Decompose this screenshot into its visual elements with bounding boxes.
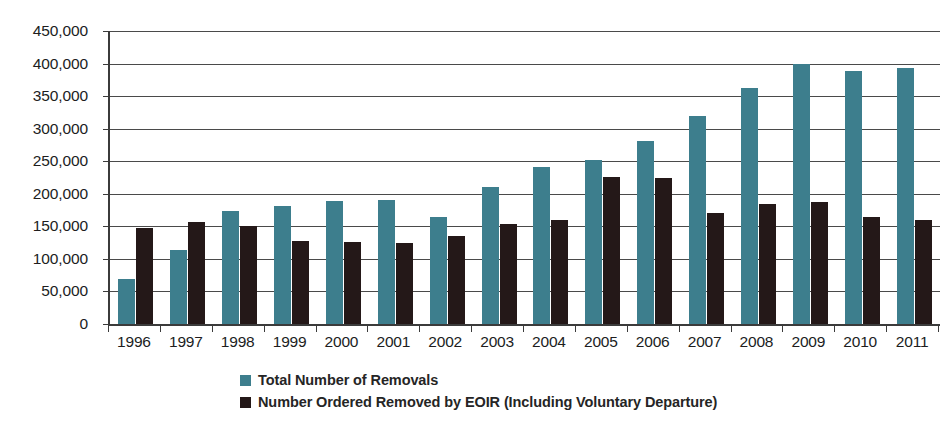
bar-2002-series-1 (430, 217, 447, 324)
y-tick-mark (103, 161, 110, 162)
x-tick-label: 2006 (627, 333, 679, 351)
bar-2009-series-2 (811, 202, 828, 324)
x-tick-mark (108, 324, 109, 332)
y-axis-tick-labels: 050,000100,000150,000200,000250,000300,0… (0, 0, 96, 360)
bar-group-2010 (836, 31, 888, 324)
bar-2007-series-1 (689, 116, 706, 324)
bar-2009-series-1 (793, 64, 810, 324)
y-tick-label: 300,000 (33, 120, 88, 138)
x-tick-label: 2011 (886, 333, 938, 351)
x-tick-label: 1998 (212, 333, 264, 351)
bar-group-2000 (318, 31, 370, 324)
legend-label-eoir-ordered-removed: Number Ordered Removed by EOIR (Includin… (258, 394, 717, 410)
bar-group-1998 (214, 31, 266, 324)
bar-2011-series-1 (897, 68, 914, 324)
y-tick-mark (103, 96, 110, 97)
x-tick-label: 2009 (782, 333, 834, 351)
y-tick-label: 100,000 (33, 250, 88, 268)
bar-1998-series-1 (222, 211, 239, 324)
x-tick-label: 2007 (679, 333, 731, 351)
bar-chart-figure: 050,000100,000150,000200,000250,000300,0… (0, 0, 948, 431)
x-tick-label: 2000 (316, 333, 368, 351)
bar-group-2006 (629, 31, 681, 324)
bar-group-2005 (577, 31, 629, 324)
x-tick-label: 2004 (523, 333, 575, 351)
x-tick-mark (212, 324, 213, 332)
x-tick-mark (731, 324, 732, 332)
bar-2004-series-1 (533, 167, 550, 324)
bar-1998-series-2 (240, 226, 257, 324)
bar-2006-series-1 (637, 141, 654, 324)
y-tick-mark (103, 226, 110, 227)
y-tick-label: 0 (79, 315, 88, 333)
bar-group-2003 (473, 31, 525, 324)
x-tick-mark (938, 324, 939, 332)
bar-2005-series-1 (585, 160, 602, 324)
bar-group-2007 (681, 31, 733, 324)
x-tick-mark (367, 324, 368, 332)
y-tick-mark (103, 31, 110, 32)
bar-2000-series-1 (326, 201, 343, 324)
y-tick-label: 450,000 (33, 22, 88, 40)
bars-layer (110, 31, 940, 324)
bar-group-1999 (266, 31, 318, 324)
y-tick-label: 350,000 (33, 87, 88, 105)
bar-1996-series-1 (118, 279, 135, 324)
bar-2008-series-1 (741, 88, 758, 324)
y-tick-label: 50,000 (41, 282, 88, 300)
legend-label-total-removals: Total Number of Removals (258, 372, 438, 388)
x-axis-tick-labels: 1996199719981999200020012002200320042005… (108, 333, 938, 351)
bar-2000-series-2 (344, 242, 361, 324)
legend-swatch-icon-total-removals (240, 375, 251, 386)
bar-1997-series-2 (188, 222, 205, 324)
bar-2008-series-2 (759, 204, 776, 324)
bar-2003-series-1 (482, 187, 499, 324)
bar-2010-series-2 (863, 217, 880, 324)
y-tick-mark (103, 291, 110, 292)
x-tick-label: 2008 (731, 333, 783, 351)
bar-group-2009 (784, 31, 836, 324)
bar-2002-series-2 (448, 236, 465, 324)
legend-item-total-removals: Total Number of Removals (0, 372, 948, 388)
y-tick-mark (103, 194, 110, 195)
x-tick-mark (627, 324, 628, 332)
bar-2007-series-2 (707, 213, 724, 324)
x-tick-label: 2001 (367, 333, 419, 351)
bar-2001-series-2 (396, 243, 413, 324)
bar-group-2002 (421, 31, 473, 324)
x-tick-mark (523, 324, 524, 332)
chart-legend: Total Number of Removals Number Ordered … (0, 372, 948, 416)
x-tick-label: 2002 (419, 333, 471, 351)
y-tick-label: 150,000 (33, 217, 88, 235)
bar-1997-series-1 (170, 250, 187, 324)
y-tick-mark (103, 64, 110, 65)
x-tick-label: 2005 (575, 333, 627, 351)
y-tick-mark (103, 259, 110, 260)
x-tick-mark (834, 324, 835, 332)
legend-item-eoir-ordered-removed: Number Ordered Removed by EOIR (Includin… (0, 394, 948, 410)
x-tick-mark (575, 324, 576, 332)
bar-1999-series-1 (274, 206, 291, 325)
x-tick-mark (264, 324, 265, 332)
bar-group-2004 (525, 31, 577, 324)
x-tick-mark (471, 324, 472, 332)
bar-group-1996 (110, 31, 162, 324)
x-tick-mark (160, 324, 161, 332)
bar-group-2011 (888, 31, 940, 324)
bar-group-2008 (733, 31, 785, 324)
y-tick-label: 250,000 (33, 152, 88, 170)
bar-2005-series-2 (603, 177, 620, 324)
x-tick-mark (419, 324, 420, 332)
bar-group-2001 (369, 31, 421, 324)
bar-2004-series-2 (551, 220, 568, 324)
x-tick-label: 1996 (108, 333, 160, 351)
x-tick-mark (886, 324, 887, 332)
bar-2003-series-2 (500, 224, 517, 324)
plot-wrapper: 050,000100,000150,000200,000250,000300,0… (0, 0, 948, 360)
bar-group-1997 (162, 31, 214, 324)
y-tick-label: 400,000 (33, 55, 88, 73)
x-tick-mark (679, 324, 680, 332)
legend-swatch-icon-eoir-ordered-removed (240, 397, 251, 408)
bar-2001-series-1 (378, 200, 395, 324)
x-tick-label: 1997 (160, 333, 212, 351)
